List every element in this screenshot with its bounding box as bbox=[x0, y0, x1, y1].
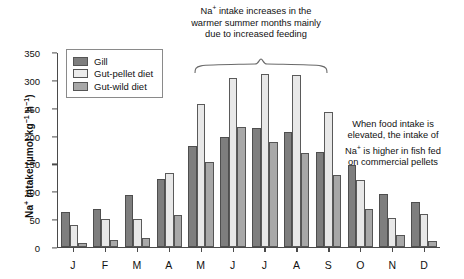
x-tick-mark bbox=[328, 248, 329, 252]
bar-pellet bbox=[292, 75, 301, 247]
bar-group bbox=[217, 53, 249, 247]
bar-wild bbox=[142, 238, 151, 247]
bar-wild bbox=[365, 209, 374, 247]
y-tick-label: 0 bbox=[35, 243, 40, 254]
bar-wild bbox=[174, 215, 183, 247]
bar-pellet bbox=[197, 104, 206, 247]
bar-pellet bbox=[388, 218, 397, 247]
y-tick-mark bbox=[52, 164, 57, 165]
legend: Gill Gut-pellet diet Gut-wild diet bbox=[66, 49, 163, 98]
x-tick-mark bbox=[169, 248, 170, 252]
bar-pellet bbox=[133, 219, 142, 247]
x-tick-label: D bbox=[408, 248, 440, 278]
x-axis-ticks: JFMAMJJASOND bbox=[57, 248, 440, 278]
bar-pellet bbox=[420, 214, 429, 247]
bar-wild bbox=[205, 162, 214, 247]
bar-wild bbox=[237, 127, 246, 247]
bar-gill bbox=[252, 128, 261, 247]
y-tick-mark bbox=[52, 52, 57, 53]
y-tick-label: 100 bbox=[24, 187, 40, 198]
bar-pellet bbox=[165, 173, 174, 247]
bar-gill bbox=[411, 202, 420, 247]
legend-label-gill: Gill bbox=[94, 56, 108, 67]
bar-pellet bbox=[261, 74, 270, 247]
bar-pellet bbox=[229, 78, 238, 247]
bar-pellet bbox=[356, 180, 365, 247]
bar-wild bbox=[396, 235, 405, 247]
legend-swatch-gill bbox=[73, 57, 88, 66]
bar-gill bbox=[188, 146, 197, 247]
y-tick-mark bbox=[52, 220, 57, 221]
legend-item-gut-wild-diet: Gut-wild diet bbox=[73, 81, 153, 92]
x-tick-label: M bbox=[185, 248, 217, 278]
y-tick-label: 150 bbox=[24, 159, 40, 170]
y-tick-mark bbox=[52, 80, 57, 81]
x-tick-label: F bbox=[89, 248, 121, 278]
bar-gill bbox=[348, 165, 357, 247]
x-tick-mark bbox=[296, 248, 297, 252]
bar-gill bbox=[379, 194, 388, 247]
bar-gill bbox=[125, 195, 134, 247]
y-tick-mark bbox=[52, 247, 57, 248]
legend-label-gut-wild-diet: Gut-wild diet bbox=[94, 81, 147, 92]
bar-wild bbox=[301, 153, 310, 247]
y-tick-label: 300 bbox=[24, 75, 40, 86]
bar-group bbox=[185, 53, 217, 247]
legend-item-gut-pellet-diet: Gut-pellet diet bbox=[73, 68, 153, 79]
x-tick-label: A bbox=[280, 248, 312, 278]
bar-gill bbox=[157, 179, 166, 247]
bar-gill bbox=[61, 212, 70, 247]
bar-gill bbox=[220, 137, 229, 247]
y-axis-ticks: 050100150200250300350 bbox=[0, 0, 57, 279]
bar-wild bbox=[110, 240, 119, 247]
x-tick-mark bbox=[392, 248, 393, 252]
bar-group bbox=[281, 53, 313, 247]
bar-group bbox=[249, 53, 281, 247]
bar-gill bbox=[316, 152, 325, 247]
y-tick-label: 50 bbox=[29, 215, 40, 226]
bar-wild bbox=[269, 142, 278, 247]
chart-figure: Na+ intake (µmol kg−1 h−1) 0501001502002… bbox=[0, 0, 464, 279]
x-tick-label: J bbox=[249, 248, 281, 278]
y-tick-mark bbox=[52, 192, 57, 193]
x-tick-mark bbox=[264, 248, 265, 252]
bar-wild bbox=[78, 243, 87, 247]
x-tick-mark bbox=[105, 248, 106, 252]
x-tick-label: O bbox=[344, 248, 376, 278]
summer-months-brace-icon bbox=[193, 58, 329, 74]
bar-pellet bbox=[70, 225, 79, 247]
y-tick-mark bbox=[52, 108, 57, 109]
bar-wild bbox=[428, 241, 437, 247]
x-tick-label: M bbox=[121, 248, 153, 278]
bar-gill bbox=[284, 132, 293, 247]
x-tick-mark bbox=[137, 248, 138, 252]
annotation-pellet-intake: When food intake is elevated, the intake… bbox=[330, 119, 456, 169]
x-tick-mark bbox=[233, 248, 234, 252]
x-tick-label: J bbox=[57, 248, 89, 278]
bar-pellet bbox=[101, 219, 110, 247]
y-tick-label: 200 bbox=[24, 131, 40, 142]
x-tick-label: N bbox=[376, 248, 408, 278]
x-tick-label: S bbox=[312, 248, 344, 278]
x-tick-mark bbox=[201, 248, 202, 252]
legend-label-gut-pellet-diet: Gut-pellet diet bbox=[94, 68, 153, 79]
x-tick-mark bbox=[424, 248, 425, 252]
annotation-summer-intake: Na+ intake increases in the warmer summe… bbox=[185, 2, 327, 40]
x-tick-mark bbox=[73, 248, 74, 252]
y-tick-label: 350 bbox=[24, 48, 40, 59]
bar-gill bbox=[93, 209, 102, 247]
y-tick-label: 250 bbox=[24, 103, 40, 114]
bar-wild bbox=[333, 175, 342, 247]
y-tick-mark bbox=[52, 136, 57, 137]
legend-item-gill: Gill bbox=[73, 56, 153, 67]
x-tick-label: J bbox=[217, 248, 249, 278]
legend-swatch-gut-wild-diet bbox=[73, 82, 88, 91]
legend-swatch-gut-pellet-diet bbox=[73, 69, 88, 78]
x-tick-label: A bbox=[153, 248, 185, 278]
x-tick-mark bbox=[360, 248, 361, 252]
